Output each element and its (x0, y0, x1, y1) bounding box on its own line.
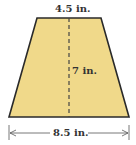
top-base-label: 4.5 in. (55, 4, 90, 14)
bottom-base-label: 8.5 in. (53, 128, 88, 138)
height-label: 7 in. (72, 66, 97, 76)
trapezoid-diagram (0, 0, 136, 145)
